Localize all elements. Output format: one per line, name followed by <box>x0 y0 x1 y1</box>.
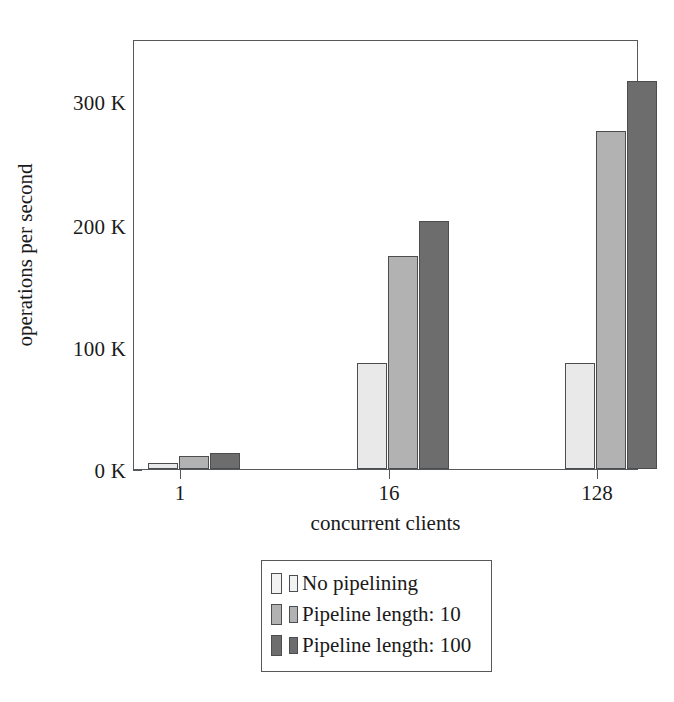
legend-swatch-small-icon <box>289 575 298 592</box>
legend-swatch-large-icon <box>271 573 282 594</box>
y-tick-mark-0k <box>133 470 142 471</box>
bar-1-pipeline-10 <box>179 456 209 469</box>
x-tick-label-16: 16 <box>379 483 400 504</box>
x-tick-label-1: 1 <box>175 483 186 504</box>
legend-swatch-pair-pipeline-10 <box>271 604 298 625</box>
legend-item-no-pipelining: No pipelining <box>271 568 418 598</box>
legend-swatch-large-icon <box>271 635 282 656</box>
bar-16-pipeline-10 <box>388 256 418 469</box>
y-tick-label-300k: 300 K <box>73 93 126 114</box>
bar-128-pipeline-10 <box>596 131 626 469</box>
x-tick-mark-1 <box>180 470 181 479</box>
x-tick-label-128: 128 <box>581 483 613 504</box>
bar-16-pipeline-100 <box>419 221 449 469</box>
bar-16-no-pipelining <box>357 363 387 469</box>
legend-swatch-small-icon <box>289 606 298 623</box>
x-tick-mark-16 <box>389 470 390 479</box>
y-axis-title: operations per second <box>12 40 38 470</box>
legend-swatch-small-icon <box>289 637 298 654</box>
legend-item-pipeline-100: Pipeline length: 100 <box>271 630 471 660</box>
legend-label-no-pipelining: No pipelining <box>302 573 418 594</box>
legend-label-pipeline-100: Pipeline length: 100 <box>302 635 471 656</box>
bar-chart-figure: operations per second 0 K 100 K 200 K 30… <box>0 0 674 702</box>
bar-1-no-pipelining <box>148 463 178 469</box>
legend-swatch-pair-pipeline-100 <box>271 635 298 656</box>
x-tick-mark-128 <box>597 470 598 479</box>
y-tick-label-200k: 200 K <box>73 217 126 238</box>
bar-128-no-pipelining <box>565 363 595 469</box>
chart-legend: No pipelining Pipeline length: 10 Pipeli… <box>261 560 492 672</box>
bar-128-pipeline-100 <box>627 81 657 469</box>
legend-swatch-large-icon <box>271 604 282 625</box>
y-tick-label-100k: 100 K <box>73 339 126 360</box>
x-axis-title: concurrent clients <box>133 513 638 534</box>
legend-item-pipeline-10: Pipeline length: 10 <box>271 599 461 629</box>
y-tick-label-0k: 0 K <box>94 461 126 482</box>
legend-swatch-pair-no-pipelining <box>271 573 298 594</box>
legend-label-pipeline-10: Pipeline length: 10 <box>302 604 461 625</box>
bar-1-pipeline-100 <box>210 453 240 469</box>
plot-area <box>133 40 638 470</box>
